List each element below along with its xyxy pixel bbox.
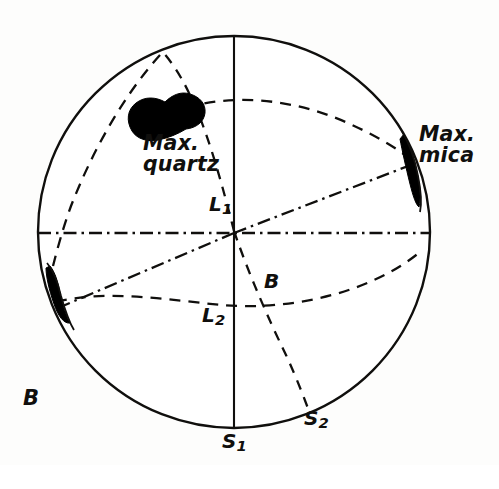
point-label-s1: S1: [222, 431, 247, 454]
point-label-l2: L2: [202, 305, 225, 328]
point-label-l1-text: L: [209, 192, 222, 216]
max-mica-label: Max. mica: [419, 124, 475, 167]
max-quartz-label-line1: Max.: [143, 133, 219, 154]
stereonet-figure: Max. quartz Max. mica L1 L2 B S1 S2 B: [0, 0, 499, 489]
point-label-l1: L1: [209, 194, 232, 217]
point-label-s1-sub: 1: [237, 437, 247, 454]
max-mica-label-line2: mica: [419, 145, 475, 166]
point-label-s2: S2: [304, 408, 329, 431]
panel-label: B: [23, 388, 39, 410]
point-label-l2-sub: 2: [215, 311, 225, 328]
point-label-s1-text: S: [222, 429, 237, 453]
stereonet-svg: [0, 0, 499, 489]
max-quartz-label-line2: quartz: [143, 154, 219, 175]
point-label-l2-text: L: [202, 303, 215, 327]
point-label-b: B: [264, 271, 279, 294]
max-mica-label-line1: Max.: [419, 124, 475, 145]
point-label-l1-sub: 1: [222, 200, 232, 217]
figure-bottom-margin: [0, 465, 499, 489]
point-label-s2-text: S: [304, 406, 319, 430]
max-quartz-label: Max. quartz: [143, 133, 219, 176]
point-label-s2-sub: 2: [319, 414, 329, 431]
point-label-b-text: B: [264, 269, 279, 293]
